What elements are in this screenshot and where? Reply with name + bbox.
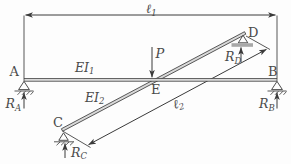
support-B: RB <box>258 81 287 112</box>
rigidity-label-EI1: EI1 <box>74 60 94 77</box>
span2-label: ℓ2 <box>171 95 186 114</box>
reaction-label-RA: RA <box>5 96 22 113</box>
support-A: RA <box>5 81 34 112</box>
pin-support-triangle-B <box>272 81 283 89</box>
beam-diagram-figure: ℓ1 ℓ2 P A B C D E EI1 EI2 RA <box>0 0 291 164</box>
span1-label: ℓ1 <box>146 1 157 18</box>
reaction-label-RC: RC <box>70 145 87 162</box>
reaction-label-RD: RD <box>224 49 241 66</box>
support-C: RC <box>54 133 87 161</box>
ground-pad-D <box>232 43 254 47</box>
beam-diagram-canvas: ℓ1 ℓ2 P A B C D E EI1 EI2 RA <box>0 0 291 164</box>
node-label-C: C <box>53 115 63 130</box>
rigidity-label-EI2: EI2 <box>84 90 104 107</box>
node-label-B: B <box>268 64 278 79</box>
node-label-E: E <box>151 82 161 97</box>
dimension-span1: ℓ1 <box>24 1 277 78</box>
node-label-D: D <box>248 25 258 40</box>
reaction-label-RB: RB <box>258 96 275 113</box>
node-label-A: A <box>9 64 20 79</box>
pin-support-triangle-A <box>19 81 30 89</box>
load-P: P <box>152 46 165 77</box>
load-P-label: P <box>155 46 165 61</box>
